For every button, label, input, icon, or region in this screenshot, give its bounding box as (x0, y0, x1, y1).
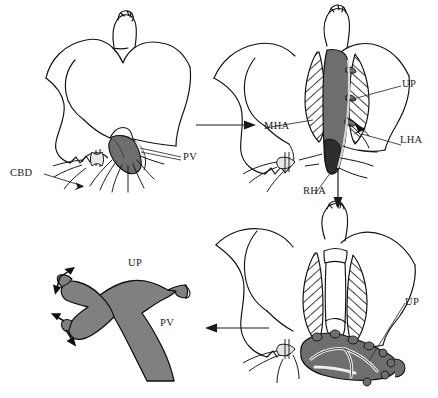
label-rha: RHA (303, 186, 326, 197)
left-lobe-margin (46, 78, 70, 163)
residual-portal-trunk (325, 263, 346, 341)
label-pv-top-left: PV (183, 152, 197, 163)
liver-left-dome (214, 43, 295, 78)
arrow-tl-to-tr (196, 116, 258, 134)
label-lha: LHA (400, 135, 422, 146)
gallbladder-fossa (245, 231, 268, 311)
vessel-clamp-band (324, 249, 347, 263)
panel-bottom-left-drawing (0, 199, 219, 398)
portal-vein-mass (109, 136, 146, 174)
hilar-ridge (267, 311, 293, 331)
liver-right-dome (134, 42, 190, 67)
hilar-ridge (84, 120, 110, 138)
left-lobe-margin (216, 245, 267, 357)
hatched-plate-right (347, 255, 367, 345)
bile-duct-stump (243, 339, 299, 383)
falciform-bridge (113, 48, 128, 49)
arrow-br-to-bl (203, 319, 269, 337)
figure-root: CBD PV MHA UP LHA RHA UP UP PV (0, 0, 438, 398)
label-up-bottom-left: UP (128, 258, 142, 269)
umbilical-portion-graft (301, 330, 405, 386)
common-bile-duct (53, 149, 108, 189)
label-up-top-right: UP (402, 79, 416, 90)
gallbladder-fossa (65, 60, 84, 120)
leader-cbd (44, 174, 84, 191)
label-cbd: CBD (10, 168, 33, 179)
label-mha: MHA (264, 121, 289, 132)
label-pv-bottom-left: PV (160, 318, 174, 329)
label-up-bottom-right: UP (405, 297, 419, 308)
arrow-tr-to-br (328, 168, 348, 210)
right-lobe-lateral-margin (176, 67, 191, 146)
liver-left-dome (46, 39, 113, 78)
hatched-plate-left (305, 52, 325, 142)
hatched-plate-left (303, 253, 323, 343)
leader-lha (362, 134, 401, 145)
panel-bottom-left (0, 199, 219, 398)
ivc-stump (324, 9, 350, 48)
falciform-notch (113, 48, 134, 63)
liver-left-dome (216, 229, 293, 247)
